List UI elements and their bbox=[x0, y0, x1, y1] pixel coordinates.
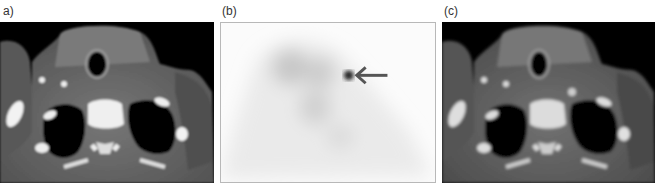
panel-a-label: a) bbox=[3, 4, 14, 18]
panel-c-label: (c) bbox=[444, 4, 458, 18]
ct-image-panel-a bbox=[0, 22, 214, 183]
fused-ct-image bbox=[442, 22, 655, 183]
scintigraphy-image bbox=[221, 23, 435, 182]
ct-image-panel-c bbox=[442, 22, 655, 183]
arrow-icon bbox=[357, 67, 388, 83]
scintigraphy-panel-b bbox=[220, 22, 436, 183]
panel-b-label: (b) bbox=[222, 4, 237, 18]
ct-scan-image bbox=[0, 22, 214, 183]
